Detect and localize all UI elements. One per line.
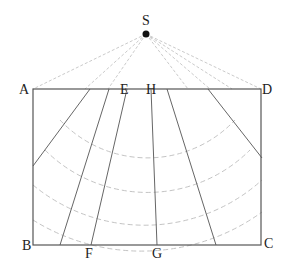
label-c: C (264, 236, 273, 251)
label-a: A (19, 82, 30, 97)
dashed-arcs (33, 120, 262, 251)
label-d: D (262, 82, 272, 97)
label-e: E (120, 82, 129, 97)
label-b: B (22, 238, 31, 253)
label-h: H (146, 82, 156, 97)
perspective-diagram: S A E H D B F G C (0, 0, 289, 270)
solid-rays (33, 89, 262, 245)
label-g: G (152, 246, 162, 261)
dashed-rays (33, 34, 261, 89)
label-f: F (85, 246, 93, 261)
point-s (143, 31, 150, 38)
label-s: S (142, 13, 150, 28)
